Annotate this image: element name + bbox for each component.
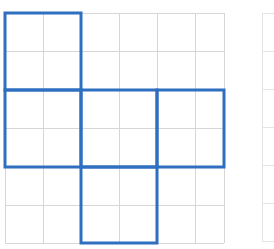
- grid-figure: [0, 0, 274, 249]
- figure-background: [0, 0, 274, 249]
- figure-container: [0, 0, 274, 249]
